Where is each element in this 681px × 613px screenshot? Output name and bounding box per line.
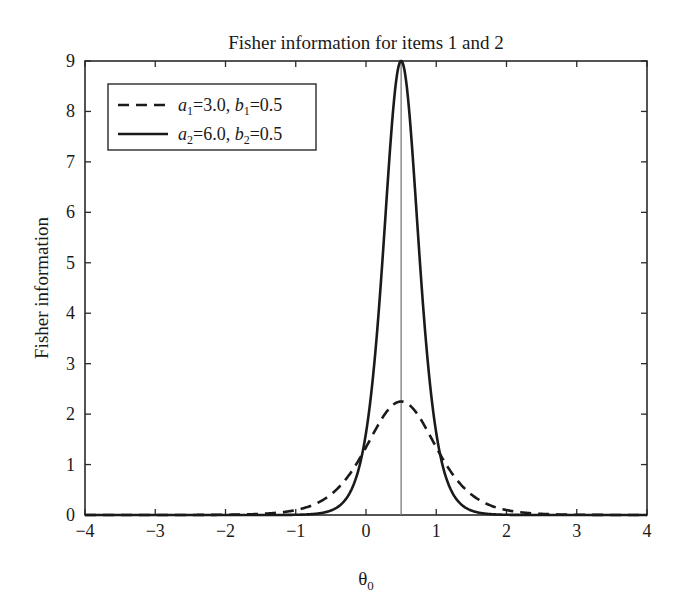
chart-title: Fisher information for items 1 and 2 [228,32,503,53]
x-tick-labels: −4−3−2−101234 [75,521,651,541]
legend-1-a-val: =3.0, [193,95,235,115]
y-tick-label: 7 [66,152,75,172]
y-tick-label: 3 [66,354,75,374]
y-tick-label: 9 [66,51,75,71]
x-tick-label: −4 [75,521,94,541]
y-tick-label: 8 [66,101,75,121]
legend-2-b: b [235,124,244,144]
y-tick-label: 0 [66,505,75,525]
x-tick-label: 2 [502,521,511,541]
x-tick-label: 4 [643,521,652,541]
x-tick-label: 1 [432,521,441,541]
y-tick-label: 1 [66,455,75,475]
legend-1-b-val: =0.5 [250,95,283,115]
y-tick-label: 6 [66,202,75,222]
y-tick-label: 5 [66,253,75,273]
legend: a1=3.0, b1=0.5 a2=6.0, b2=0.5 [108,84,316,150]
x-tick-label: −3 [146,521,165,541]
series-dashed-curve [85,402,647,516]
x-axis-label-subscript: 0 [367,578,374,593]
legend-2-b-val: =0.5 [250,124,283,144]
legend-1-a: a [178,95,187,115]
legend-2-a-val: =6.0, [193,124,235,144]
legend-1-b: b [235,95,244,115]
x-tick-label: −1 [286,521,305,541]
y-tick-labels: 0123456789 [66,51,75,525]
x-tick-label: 0 [362,521,371,541]
y-tick-label: 4 [66,303,75,323]
x-axis-label-symbol: θ [358,568,367,589]
x-axis-label: θ0 [358,568,374,593]
y-axis-label: Fisher information [31,217,52,359]
x-tick-label: 3 [572,521,581,541]
y-tick-label: 2 [66,404,75,424]
legend-2-a: a [178,124,187,144]
fisher-information-chart: Fisher information for items 1 and 2 −4−… [0,0,681,613]
x-tick-label: −2 [216,521,235,541]
legend-entry-2: a2=6.0, b2=0.5 [178,124,282,147]
legend-entry-1: a1=3.0, b1=0.5 [178,95,282,118]
